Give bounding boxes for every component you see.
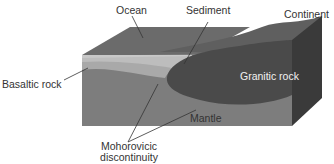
granitic-rock-label: Granitic rock xyxy=(240,70,299,82)
sediment-label: Sediment xyxy=(186,4,230,16)
crust-diagram: Ocean Sediment Continent Basaltic rock G… xyxy=(0,0,334,164)
mantle-label: Mantle xyxy=(190,112,222,124)
continent-label: Continent xyxy=(284,8,329,20)
moho-label-line2: discontinuity xyxy=(94,151,164,163)
ocean-label: Ocean xyxy=(116,4,147,16)
basaltic-rock-label: Basaltic rock xyxy=(2,78,62,90)
